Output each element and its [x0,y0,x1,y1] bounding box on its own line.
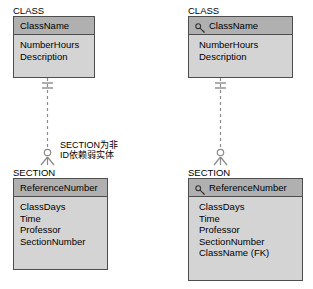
right-child-crowsfoot-left [214,157,221,165]
right-child-entity-title: SECTION [188,167,230,178]
key-icon [195,182,206,193]
attribute-item: SectionNumber [199,236,302,248]
right-child-entity-section[interactable]: ReferenceNumber ClassDays Time Professor… [188,178,303,281]
attribute-item: ClassName (FK) [199,247,302,259]
attribute-item: Professor [199,224,302,236]
right-child-key-attribute: ReferenceNumber [209,182,287,193]
attribute-item: ClassDays [199,201,302,213]
right-child-attribute-list: ClassDays Time Professor SectionNumber C… [189,197,302,264]
attribute-item: Time [199,213,302,225]
right-child-key-row: ReferenceNumber [189,179,302,197]
right-child-optional-circle [217,149,223,155]
right-child-crowsfoot-right [221,157,228,165]
